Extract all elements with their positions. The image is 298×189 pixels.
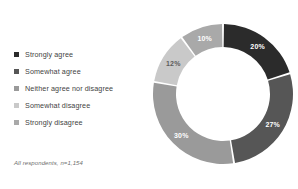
legend-swatch-icon (14, 69, 19, 74)
legend-item-label: Somewhat agree (25, 68, 81, 75)
legend-item-somewhat-agree[interactable]: Somewhat agree (14, 64, 113, 79)
legend-item-neither-agree-nor-disagree[interactable]: Neither agree nor disagree (14, 81, 113, 96)
chart-footnote: All respondents, n=1,154 (14, 160, 83, 166)
donut-slice[interactable] (153, 83, 233, 164)
donut-slice-label: 30% (174, 132, 189, 139)
donut-slice[interactable] (224, 24, 290, 79)
donut-slice-label: 10% (197, 35, 212, 42)
legend-item-label: Neither agree nor disagree (25, 85, 113, 92)
legend-item-strongly-agree[interactable]: Strongly agree (14, 47, 113, 62)
chart-legend: Strongly agree Somewhat agree Neither ag… (14, 47, 113, 132)
donut-slice-group (153, 24, 293, 164)
legend-swatch-icon (14, 52, 19, 57)
donut-chart-svg: 20%27%30%12%10% (149, 0, 298, 189)
donut-slice-label: 20% (250, 43, 265, 50)
donut-chart-panel: 20%27%30%12%10% (149, 0, 298, 189)
legend-item-label: Somewhat disagree (25, 102, 90, 109)
legend-swatch-icon (14, 86, 19, 91)
legend-panel: Strongly agree Somewhat agree Neither ag… (0, 0, 149, 189)
donut-slice[interactable] (231, 74, 293, 163)
legend-item-label: Strongly agree (25, 51, 73, 58)
legend-item-label: Strongly disagree (25, 119, 83, 126)
donut-slice-label: 12% (166, 60, 181, 67)
legend-swatch-icon (14, 120, 19, 125)
legend-swatch-icon (14, 103, 19, 108)
legend-item-somewhat-disagree[interactable]: Somewhat disagree (14, 98, 113, 113)
legend-item-strongly-disagree[interactable]: Strongly disagree (14, 115, 113, 130)
donut-slice-label: 27% (265, 121, 280, 128)
donut-chart-figure: Strongly agree Somewhat agree Neither ag… (0, 0, 298, 189)
